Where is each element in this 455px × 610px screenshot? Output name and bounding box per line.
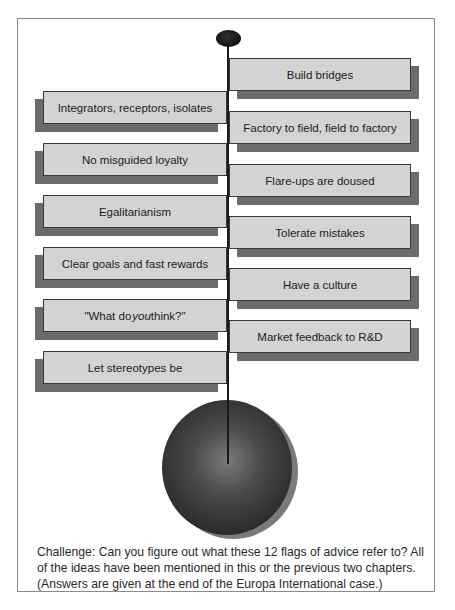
flag-label: Egalitarianism bbox=[43, 195, 227, 228]
pole-top-finial bbox=[216, 30, 241, 47]
flag-label-part: think?" bbox=[151, 310, 186, 322]
flag-label: Flare-ups are doused bbox=[229, 164, 411, 197]
flag-label: Market feedback to R&D bbox=[229, 320, 411, 353]
flagpole bbox=[227, 40, 229, 464]
flag-label: No misguided loyalty bbox=[43, 143, 227, 176]
flag-label: Have a culture bbox=[229, 268, 411, 301]
flag-label: "What do you think?" bbox=[43, 299, 227, 332]
flag-label: Integrators, receptors, isolates bbox=[43, 91, 227, 124]
flag-label-part: "What do bbox=[84, 310, 131, 322]
flag-label-emphasis: you bbox=[132, 310, 151, 322]
flag-label: Let stereotypes be bbox=[43, 351, 227, 384]
flag-label: Build bridges bbox=[229, 58, 411, 91]
flag-label: Factory to field, field to factory bbox=[229, 111, 411, 144]
flag-label: Clear goals and fast rewards bbox=[43, 247, 227, 280]
flag-label: Tolerate mistakes bbox=[229, 216, 411, 249]
challenge-caption: Challenge: Can you figure out what these… bbox=[37, 544, 432, 592]
